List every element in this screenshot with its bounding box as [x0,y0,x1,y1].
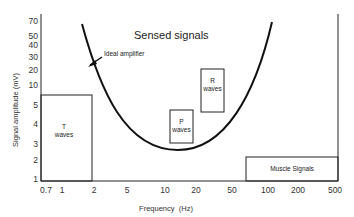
svg-text:1: 1 [33,174,38,184]
svg-text:10: 10 [29,80,39,90]
x-tick-labels: 0.7 1 2 5 10 20 50 100 200 500 [40,185,342,195]
y-axis-label: Signal amplitude (mV) [11,73,20,147]
x-axis-label: Frequency (Hz) [139,204,193,213]
svg-text:70: 70 [29,16,39,26]
svg-text:500: 500 [328,185,342,195]
svg-text:40: 40 [29,40,39,50]
svg-text:1: 1 [60,185,65,195]
svg-text:2: 2 [92,185,97,195]
t-waves-label-line2: waves [54,131,74,138]
sensed-signals-label: Sensed signals [134,29,209,41]
svg-text:20: 20 [29,65,39,75]
svg-text:0.7: 0.7 [40,185,52,195]
p-waves-label-line2: waves [171,126,191,133]
svg-text:100: 100 [261,185,275,195]
r-waves-label-line1: R [210,77,215,84]
chart: 70 50 40 30 20 10 5 4 3 2 1 0.7 1 2 5 10… [0,0,354,217]
svg-text:3: 3 [33,139,38,149]
t-waves-label-line1: T [62,123,66,130]
svg-text:200: 200 [291,185,305,195]
ideal-amplifier-label: Ideal amplifier [104,50,145,58]
svg-text:5: 5 [33,100,38,110]
svg-text:50: 50 [227,185,237,195]
r-waves-label-line2: waves [202,85,222,92]
svg-text:20: 20 [191,185,201,195]
svg-text:10: 10 [160,185,170,195]
svg-text:4: 4 [33,119,38,129]
svg-text:30: 30 [29,52,39,62]
t-waves-region [41,95,92,181]
y-tick-labels: 70 50 40 30 20 10 5 4 3 2 1 [29,16,39,184]
svg-text:5: 5 [125,185,130,195]
muscle-signals-label: Muscle Signals [270,165,314,173]
p-waves-label-line1: P [179,118,183,125]
svg-text:2: 2 [33,155,38,165]
